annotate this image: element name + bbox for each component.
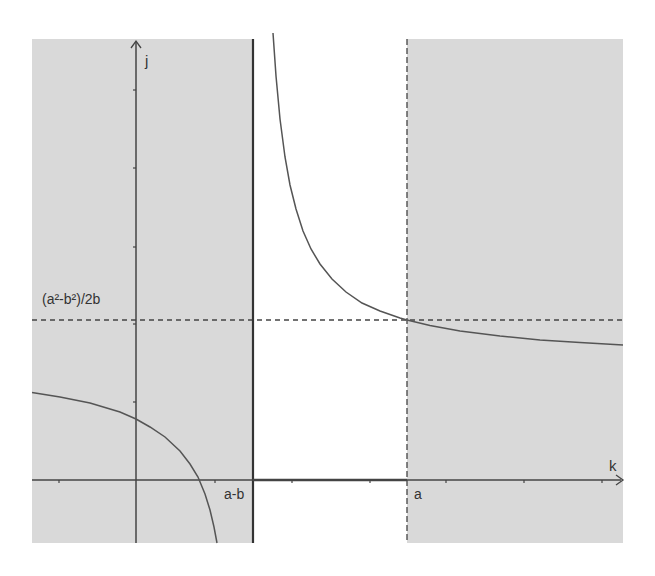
label-a-minus-b: a-b [224,486,244,502]
graph-figure: j k a-b a (a²-b²)/2b [0,0,655,576]
x-axis-label: k [609,457,617,474]
y-axis-label: j [144,52,148,69]
label-horizontal-line: (a²-b²)/2b [42,291,101,307]
shaded-region-right [407,39,623,543]
label-a: a [414,486,422,502]
